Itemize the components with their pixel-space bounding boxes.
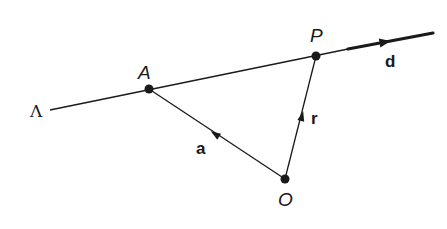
- point-o-dot: [281, 175, 290, 184]
- point-a-dot: [145, 85, 154, 94]
- point-p-dot: [312, 52, 321, 61]
- point-o-label: O: [278, 189, 293, 210]
- direction-vector-d-label: d: [385, 52, 395, 71]
- direction-vector-d: [348, 33, 433, 49]
- line-lambda: [50, 49, 348, 110]
- vector-line-diagram: Λ A P O a r d: [0, 0, 447, 229]
- line-lambda-label: Λ: [29, 101, 43, 121]
- vector-a-label: a: [196, 139, 206, 158]
- point-a-label: A: [137, 62, 151, 83]
- vector-r-label: r: [311, 109, 318, 128]
- arrow-head-a-icon: [211, 131, 221, 139]
- point-p-label: P: [310, 25, 323, 46]
- arrow-head-r-icon: [297, 111, 304, 122]
